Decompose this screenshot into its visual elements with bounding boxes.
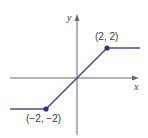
- y-axis-label: y: [66, 12, 72, 23]
- point-lower: [43, 106, 48, 111]
- y-axis-arrow-icon: [75, 14, 80, 21]
- x-axis-arrow-icon: [132, 76, 139, 81]
- piecewise-graph: y x (2, 2) (−2, −2): [0, 0, 148, 138]
- point-upper-label: (2, 2): [95, 31, 118, 42]
- point-lower-label: (−2, −2): [26, 113, 61, 124]
- x-axis-label: x: [133, 81, 139, 92]
- point-upper: [104, 45, 109, 50]
